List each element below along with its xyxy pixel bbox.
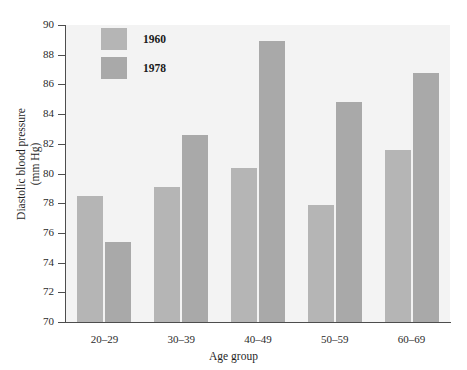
y-tick-80 <box>58 174 65 175</box>
y-axis-title-line2: (mm Hg) <box>28 44 42 284</box>
bar-1960-40-49 <box>231 168 257 322</box>
y-tick-84 <box>58 114 65 115</box>
x-tick-label-40-49: 40–49 <box>218 333 298 345</box>
bar-1960-30-39 <box>154 187 180 322</box>
legend-swatch-1978 <box>101 57 127 79</box>
bar-1960-20-29 <box>77 196 103 322</box>
y-tick-label-90: 90 <box>30 19 54 30</box>
x-tick-label-30-39: 30–39 <box>141 333 221 345</box>
y-axis-title: Diastolic blood pressure (mm Hg) <box>14 44 42 284</box>
legend-label-1960: 1960 <box>143 33 166 45</box>
bar-1978-40-49 <box>259 41 285 322</box>
y-tick-70 <box>58 322 65 323</box>
x-tick-label-60-69: 60–69 <box>372 333 452 345</box>
bar-1978-30-39 <box>182 135 208 322</box>
x-tick-label-20-29: 20–29 <box>64 333 144 345</box>
y-tick-74 <box>58 263 65 264</box>
y-tick-82 <box>58 144 65 145</box>
bar-1960-50-59 <box>308 205 334 322</box>
chart-legend: 1960 1978 <box>101 28 211 86</box>
y-tick-90 <box>58 25 65 26</box>
legend-item-1960: 1960 <box>101 28 211 50</box>
legend-label-1978: 1978 <box>143 62 166 74</box>
y-axis-title-line1: Diastolic blood pressure <box>15 108 27 220</box>
y-tick-72 <box>58 292 65 293</box>
y-tick-label-70: 70 <box>30 316 54 327</box>
x-tick-label-50-59: 50–59 <box>295 333 375 345</box>
bar-1978-20-29 <box>105 242 131 322</box>
bar-1978-50-59 <box>336 102 362 322</box>
y-tick-88 <box>58 55 65 56</box>
y-tick-78 <box>58 203 65 204</box>
y-tick-86 <box>58 84 65 85</box>
x-axis-line <box>65 322 451 323</box>
y-tick-label-72: 72 <box>30 286 54 297</box>
bar-1978-60-69 <box>413 73 439 322</box>
legend-swatch-1960 <box>101 28 127 50</box>
y-tick-76 <box>58 233 65 234</box>
bar-1960-60-69 <box>385 150 411 322</box>
legend-item-1978: 1978 <box>101 57 211 79</box>
x-axis-title: Age group <box>0 350 467 362</box>
bar-chart: 7072747678808284868890 Diastolic blood p… <box>0 0 467 370</box>
